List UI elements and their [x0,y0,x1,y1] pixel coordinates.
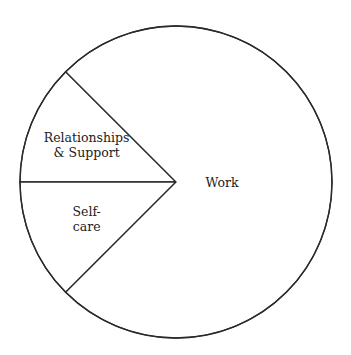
slice-label-line: Relationships [44,130,130,145]
slice-label-line: care [73,219,101,234]
slice-label-line: Self- [72,204,100,219]
slice-label-line: Work [205,175,239,190]
slice-label-work: Work [205,175,239,190]
pie-slices [20,26,332,338]
slice-label-line: & Support [54,145,120,160]
pie-chart: Relationships& SupportSelf-careWork [0,0,351,355]
slice-label-relationships-support: Relationships& Support [44,130,130,160]
slice-label-self-care: Self-care [72,204,100,234]
